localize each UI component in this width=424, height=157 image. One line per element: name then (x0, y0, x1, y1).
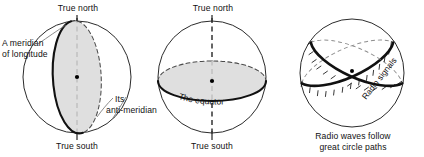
true-south-label-panel1: True south (45, 141, 109, 151)
great-circle-b-back (311, 29, 408, 83)
earth-center-dot (350, 69, 354, 73)
caption-line1: Radio waves follow (315, 131, 390, 141)
meridian-label-line2: of longitude (2, 49, 48, 59)
caption-line2: great circle paths (319, 142, 386, 152)
true-north-label-panel2: True north (182, 3, 244, 13)
meridian-of-longitude-label: A meridian of longitude (2, 38, 64, 60)
anti-meridian-label-line2: anti-meridian (106, 105, 164, 116)
its-anti-meridian-label: Its anti-meridian (106, 94, 164, 116)
great-circle-caption: Radio waves follow great circle paths (294, 131, 412, 153)
true-north-label-panel1: True north (47, 3, 109, 13)
great-circle-sphere: Radio signals (296, 19, 408, 127)
equator-sphere: The equator (158, 15, 266, 140)
meridian-sphere (23, 15, 131, 140)
earth-center-dot (75, 75, 79, 79)
earth-center-dot (210, 79, 214, 83)
anti-meridian-label-line1: Its (106, 94, 164, 105)
earth-geometry-figure: The equator (0, 0, 424, 157)
meridian-label-line1: A meridian (2, 38, 44, 48)
true-south-label-panel2: True south (180, 141, 244, 151)
